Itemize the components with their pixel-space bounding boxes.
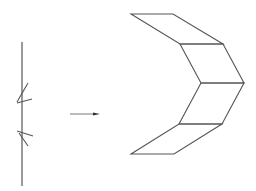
tick-mark xyxy=(17,99,32,103)
lower-middle-panel xyxy=(179,83,244,124)
diagram-svg xyxy=(0,0,256,191)
top-panel xyxy=(131,14,223,44)
bottom-panel xyxy=(131,124,222,154)
arrow-head-icon xyxy=(93,112,100,115)
chevron-strip xyxy=(131,14,244,154)
diagram-canvas xyxy=(0,0,256,191)
upper-middle-panel xyxy=(180,44,244,83)
vertical-line-with-ticks xyxy=(17,42,33,186)
transform-arrow xyxy=(70,112,100,115)
tick-mark xyxy=(19,133,28,146)
